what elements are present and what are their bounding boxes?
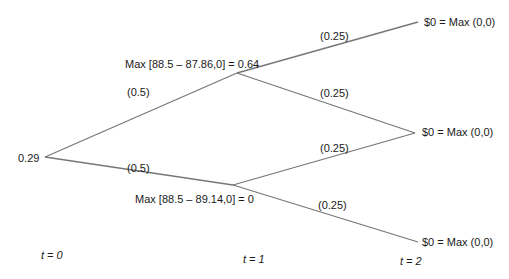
node-t1-up-label: Max [88.5 – 87.86,0] = 0.64 (125, 58, 259, 71)
prob-root-up: (0.5) (127, 86, 150, 99)
node-t2-top-label: $0 = Max (0,0) (424, 16, 495, 29)
root-value: 0.29 (18, 152, 39, 165)
prob-down-down: (0.25) (318, 199, 347, 212)
node-t1-down-label: Max [88.5 – 89.14,0] = 0 (135, 193, 254, 206)
time-label-t1: t = 1 (243, 253, 265, 266)
node-t2-mid-label: $0 = Max (0,0) (422, 126, 493, 139)
node-t2-bottom-label: $0 = Max (0,0) (422, 236, 493, 249)
time-label-t0: t = 0 (41, 249, 63, 262)
prob-root-down: (0.5) (127, 162, 150, 175)
prob-up-up: (0.25) (320, 30, 349, 43)
prob-down-up: (0.25) (320, 142, 349, 155)
time-label-t2: t = 2 (400, 255, 422, 268)
edge-down-down (233, 185, 418, 242)
edge-down-up (233, 133, 415, 185)
edge-up-down (237, 73, 415, 133)
prob-up-down: (0.25) (320, 87, 349, 100)
